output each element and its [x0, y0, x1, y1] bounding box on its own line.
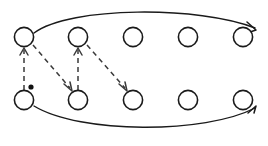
- top-row-nodes: [14, 27, 252, 46]
- solid-arc-bottom: [34, 106, 256, 127]
- petri-net-diagram: [0, 0, 268, 146]
- dashed-arrow-b1-t1: [20, 48, 28, 90]
- diagram-canvas: [0, 0, 268, 146]
- token-dot-b1: [28, 84, 33, 89]
- node-t4[interactable]: [178, 27, 197, 46]
- node-t2[interactable]: [68, 27, 87, 46]
- dashed-arrow-t2-b3-line: [87, 45, 125, 88]
- node-b5[interactable]: [233, 90, 252, 109]
- node-t3[interactable]: [123, 27, 142, 46]
- node-t5[interactable]: [233, 27, 252, 46]
- solid-arc-top-path: [34, 12, 255, 33]
- node-b1[interactable]: [14, 90, 33, 109]
- node-b4[interactable]: [178, 90, 197, 109]
- dashed-arrow-t1-b2-line: [33, 45, 70, 88]
- node-t1[interactable]: [14, 27, 33, 46]
- solid-arc-top: [34, 12, 256, 33]
- node-b2[interactable]: [68, 90, 87, 109]
- solid-arc-bottom-path: [34, 106, 255, 127]
- dashed-arrow-t2-b3: [87, 45, 127, 91]
- node-b3[interactable]: [123, 90, 142, 109]
- bottom-row-nodes: [14, 90, 252, 109]
- dashed-arrow-b2-t2: [74, 48, 82, 90]
- dashed-arrow-t1-b2: [33, 45, 72, 91]
